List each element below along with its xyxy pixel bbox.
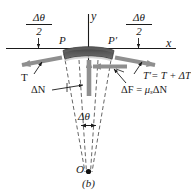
point-label-o: O	[76, 164, 84, 175]
angle-left-numerator: Δθ	[26, 12, 52, 24]
axis-label-x: x	[166, 37, 171, 49]
angle-right-denominator: 2	[126, 26, 152, 38]
origin-point-dot	[86, 169, 91, 174]
normal-force-label: ΔN	[31, 85, 45, 96]
axis-label-y: y	[91, 10, 96, 22]
tension-left-arrow	[22, 58, 62, 66]
angle-label-right: Δθ 2	[126, 12, 152, 37]
center-angle-label: Δθ	[78, 111, 90, 122]
figure-caption: (b)	[82, 178, 95, 189]
belt-friction-free-body-diagram: Δθ 2 Δθ 2 y x P P′ O T T′= T + ΔT ΔN ΔF …	[0, 0, 191, 194]
friction-prefix: ΔF	[121, 84, 134, 95]
tension-right-prefix: T′	[143, 70, 151, 81]
friction-equals: =	[136, 84, 142, 95]
point-label-p-prime: P′	[108, 35, 117, 46]
tension-right-label: T′= T + ΔT	[143, 71, 191, 82]
friction-force-label: ΔF = μsΔN	[121, 85, 167, 96]
friction-delta-n: ΔN	[153, 84, 167, 95]
point-label-p: P	[59, 35, 66, 46]
angle-label-left: Δθ 2	[26, 12, 52, 37]
tension-right-equation: = T + ΔT	[151, 70, 191, 81]
tension-left-label: T	[21, 72, 28, 83]
angle-left-denominator: 2	[26, 26, 52, 38]
tension-right-arrow	[115, 58, 155, 66]
angle-right-numerator: Δθ	[126, 12, 152, 24]
